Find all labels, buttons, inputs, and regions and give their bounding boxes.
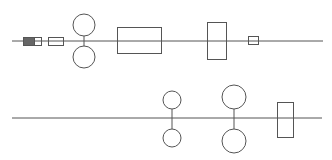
gear-bottom-circle (163, 129, 181, 147)
coupling-filled-rect (24, 38, 35, 46)
gear-top-circle (73, 14, 95, 36)
diagram-canvas (0, 0, 332, 160)
gear-bottom-circle (222, 129, 246, 153)
gear-top-circle (222, 85, 246, 109)
shaft-schematic-diagram (0, 0, 332, 160)
tall-block-rect (278, 103, 294, 138)
gear-top-circle (163, 91, 181, 109)
gear-bottom-circle (73, 46, 95, 68)
